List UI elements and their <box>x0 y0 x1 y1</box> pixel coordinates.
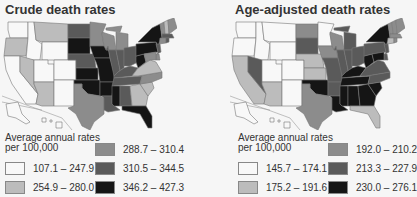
us-map-age-adjusted <box>230 18 405 130</box>
legend-crude: Average annual rates per 100,000 107.1 –… <box>5 133 100 153</box>
legend-swatch <box>95 143 115 156</box>
legend-item: 213.3 – 227.9 <box>328 159 417 178</box>
state-ma <box>162 34 174 38</box>
state-wy <box>42 42 68 60</box>
state-ms <box>340 86 348 106</box>
state-ma <box>390 34 402 38</box>
state-me <box>396 18 405 34</box>
state-or <box>232 38 256 56</box>
state-co <box>282 60 304 80</box>
legend-swatch <box>328 181 348 194</box>
legend-label: 107.1 – 247.9 <box>33 163 94 174</box>
legend-item: 288.7 – 310.4 <box>95 140 184 159</box>
legend-label: 145.7 – 174.1 <box>266 163 327 174</box>
legend-swatch <box>5 181 25 194</box>
legend-swatch <box>328 162 348 175</box>
legend-item: 230.0 – 276.1 <box>328 178 417 197</box>
state-nd <box>296 24 318 38</box>
state-hi <box>42 118 62 128</box>
legend-label: 175.2 – 191.6 <box>266 182 327 193</box>
legend-swatch <box>238 162 258 175</box>
state-co <box>54 60 76 80</box>
state-ct <box>159 38 166 44</box>
us-map-crude <box>2 18 177 130</box>
legend-label: 230.0 – 276.1 <box>356 182 417 193</box>
state-wy <box>270 42 296 60</box>
state-fl <box>350 106 380 128</box>
state-nd <box>68 24 90 38</box>
state-fl <box>122 106 152 128</box>
state-ct <box>387 38 394 44</box>
legend-label: 254.9 – 280.0 <box>33 182 94 193</box>
state-ut <box>34 60 54 82</box>
state-ak <box>234 102 258 124</box>
state-ms <box>112 86 120 106</box>
state-ks <box>304 68 326 80</box>
legend-item: 107.1 – 247.9 <box>5 159 94 178</box>
state-me <box>168 18 177 34</box>
legend-item: 192.0 – 210.2 <box>328 140 417 159</box>
legend-swatch <box>5 162 25 175</box>
state-mt <box>34 22 68 42</box>
legend-subheading: per 100,000 <box>5 143 100 153</box>
legend-swatch <box>238 181 258 194</box>
legend-label: 310.5 – 344.5 <box>123 163 184 174</box>
state-ak <box>6 102 30 124</box>
state-sd <box>296 38 318 54</box>
state-ut <box>262 60 282 82</box>
figure-title: Age-adjusted death rates <box>235 2 390 17</box>
legend-label: 192.0 – 210.2 <box>356 144 417 155</box>
crude-death-rates-figure: Crude death rates Average annual rates p… <box>0 0 200 195</box>
state-ks <box>76 68 98 80</box>
legend-label: 288.7 – 310.4 <box>123 144 184 155</box>
state-nm <box>282 80 302 106</box>
legend-swatch <box>95 181 115 194</box>
legend-item: 145.7 – 174.1 <box>238 159 327 178</box>
age-adjusted-death-rates-figure: Age-adjusted death rates Average annual … <box>200 0 402 195</box>
state-wa <box>236 22 256 38</box>
state-de <box>384 54 388 60</box>
legend-swatch <box>328 143 348 156</box>
legend-item: 346.2 – 427.3 <box>95 178 184 197</box>
legend-item: 175.2 – 191.6 <box>238 178 327 197</box>
legend-label: 213.3 – 227.9 <box>356 163 417 174</box>
legend-age-adjusted: Average annual rates per 100,000 145.7 –… <box>238 133 333 153</box>
state-wa <box>8 22 28 38</box>
legend-swatch <box>95 162 115 175</box>
state-ri <box>166 38 169 43</box>
state-ri <box>394 38 397 43</box>
state-mt <box>262 22 296 42</box>
state-or <box>4 38 28 56</box>
state-sd <box>68 38 90 54</box>
figure-title: Crude death rates <box>5 2 116 17</box>
legend-label: 346.2 – 427.3 <box>123 182 184 193</box>
legend-item: 254.9 – 280.0 <box>5 178 94 197</box>
state-de <box>156 54 160 60</box>
state-hi <box>270 118 290 128</box>
legend-item: 310.5 – 344.5 <box>95 159 184 178</box>
state-nm <box>54 80 74 106</box>
legend-subheading: per 100,000 <box>238 143 333 153</box>
